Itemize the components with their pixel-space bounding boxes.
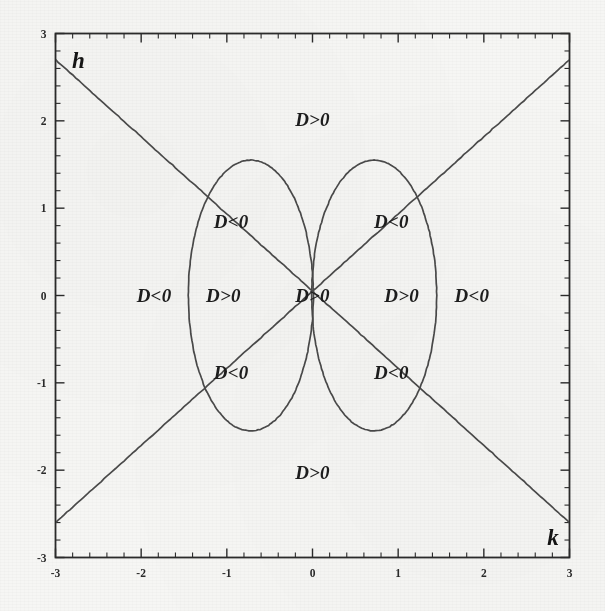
region-label-top: D>0 bbox=[294, 109, 330, 130]
x-tick-labels: -3-2-10123 bbox=[51, 567, 573, 579]
figure-root: -3-2-10123 3210-1-2-3 D>0D<0D<0D<0D>0D>0… bbox=[0, 0, 605, 611]
x-axis-ticks-top bbox=[56, 34, 570, 43]
region-label-mid-far-left: D<0 bbox=[136, 285, 172, 306]
y-tick-label: 0 bbox=[41, 290, 47, 302]
y-axis-ticks bbox=[56, 34, 65, 558]
region-label-lower-right: D<0 bbox=[373, 362, 409, 383]
region-label-mid-far-right: D<0 bbox=[454, 285, 490, 306]
region-label-upper-right: D<0 bbox=[373, 211, 409, 232]
x-tick-label: 0 bbox=[310, 567, 316, 579]
y-tick-labels: 3210-1-2-3 bbox=[37, 28, 47, 564]
y-tick-label: 1 bbox=[41, 202, 47, 214]
region-label-lower-left: D<0 bbox=[213, 362, 249, 383]
discriminant-sign-plot: -3-2-10123 3210-1-2-3 D>0D<0D<0D<0D>0D>0… bbox=[0, 0, 605, 611]
y-tick-label: -3 bbox=[37, 552, 47, 564]
x-tick-label: -2 bbox=[136, 567, 146, 579]
region-label-upper-left: D<0 bbox=[213, 211, 249, 232]
y-axis-label: h bbox=[72, 48, 85, 73]
y-tick-label: -2 bbox=[37, 464, 47, 476]
region-label-bottom: D>0 bbox=[294, 462, 330, 483]
y-tick-label: -1 bbox=[37, 377, 47, 389]
y-tick-label: 2 bbox=[41, 115, 47, 127]
y-tick-label: 3 bbox=[41, 28, 47, 40]
x-tick-label: 1 bbox=[395, 567, 401, 579]
x-axis-label: k bbox=[547, 525, 559, 550]
x-tick-label: 3 bbox=[567, 567, 573, 579]
y-axis-ticks-right bbox=[561, 34, 570, 558]
region-label-mid-right: D>0 bbox=[383, 285, 419, 306]
region-label-mid-left: D>0 bbox=[205, 285, 241, 306]
region-label-center: D>0 bbox=[294, 285, 330, 306]
x-tick-label: 2 bbox=[481, 567, 487, 579]
x-tick-label: -1 bbox=[222, 567, 232, 579]
x-axis-ticks bbox=[56, 549, 570, 558]
x-tick-label: -3 bbox=[51, 567, 61, 579]
